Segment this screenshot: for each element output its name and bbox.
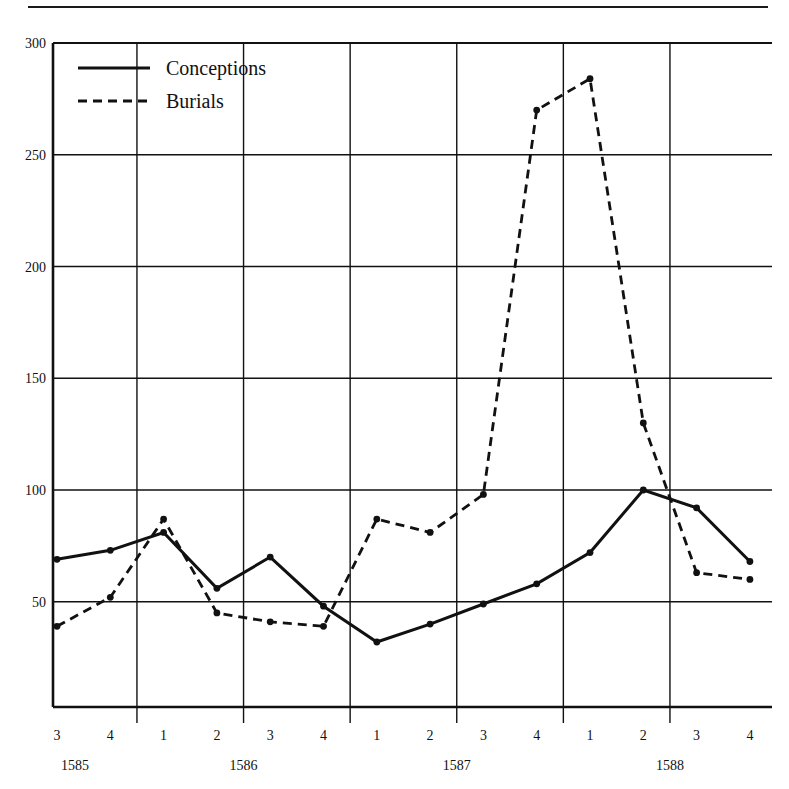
data-point [54, 623, 61, 630]
data-point [320, 623, 327, 630]
data-series-layer [54, 75, 754, 645]
x-axis-year-label: 1588 [656, 758, 684, 773]
y-tick-label: 100 [25, 483, 46, 498]
data-point [747, 558, 754, 565]
y-tick-label: 250 [25, 148, 46, 163]
x-axis-year-label: 1587 [443, 758, 471, 773]
x-tick-label-quarter: 1 [373, 728, 380, 743]
data-point [533, 107, 540, 114]
data-point [160, 516, 167, 523]
data-point [54, 556, 61, 563]
gridlines [53, 43, 772, 723]
x-tick-label-quarter: 4 [107, 728, 114, 743]
data-point [427, 621, 434, 628]
data-point [693, 504, 700, 511]
data-point [320, 603, 327, 610]
chart-legend: ConceptionsBurials [78, 57, 266, 112]
data-point [373, 639, 380, 646]
x-axis-year-label: 1586 [230, 758, 258, 773]
series-line-burials [57, 79, 750, 627]
y-axis-tick-labels: 50100150200250300 [25, 36, 46, 610]
data-point [214, 585, 221, 592]
x-tick-label-quarter: 1 [587, 728, 594, 743]
data-point [533, 580, 540, 587]
data-point [587, 75, 594, 82]
data-point [373, 516, 380, 523]
x-axis-year-label: 1585 [61, 758, 89, 773]
line-chart: 50100150200250300 34123412341234 1585158… [0, 0, 789, 789]
series-line-conceptions [57, 490, 750, 642]
x-tick-label-quarter: 3 [693, 728, 700, 743]
data-point [160, 529, 167, 536]
x-tick-label-quarter: 2 [640, 728, 647, 743]
x-tick-label-quarter: 4 [320, 728, 327, 743]
chart-page: 50100150200250300 34123412341234 1585158… [0, 0, 789, 789]
data-point [640, 487, 647, 494]
data-point [214, 610, 221, 617]
x-tick-label-quarter: 3 [480, 728, 487, 743]
data-point [107, 547, 114, 554]
x-tick-label-quarter: 3 [267, 728, 274, 743]
legend-label: Burials [166, 90, 224, 112]
data-point [480, 601, 487, 608]
data-point [587, 549, 594, 556]
data-point [640, 420, 647, 427]
y-tick-label: 50 [32, 595, 46, 610]
x-axis-year-labels: 1585158615871588 [61, 758, 684, 773]
data-point [107, 594, 114, 601]
x-tick-label-quarter: 3 [54, 728, 61, 743]
x-tick-label-quarter: 2 [427, 728, 434, 743]
axis-frame [53, 43, 772, 707]
y-tick-label: 200 [25, 260, 46, 275]
x-tick-label-quarter: 2 [213, 728, 220, 743]
x-tick-label-quarter: 1 [160, 728, 167, 743]
data-point [747, 576, 754, 583]
data-point [427, 529, 434, 536]
x-axis-tick-labels: 34123412341234 [54, 728, 754, 743]
y-tick-label: 300 [25, 36, 46, 51]
x-tick-label-quarter: 4 [746, 728, 753, 743]
x-tick-label-quarter: 4 [533, 728, 540, 743]
legend-label: Conceptions [166, 57, 266, 80]
data-point [267, 618, 274, 625]
data-point [267, 554, 274, 561]
chart-figure: 50100150200250300 34123412341234 1585158… [0, 0, 789, 789]
data-point [480, 491, 487, 498]
data-point [693, 569, 700, 576]
y-tick-label: 150 [25, 371, 46, 386]
